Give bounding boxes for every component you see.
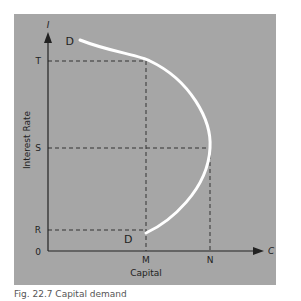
curve-label-top: D [66, 35, 74, 48]
x-axis-arrow-icon [253, 247, 264, 255]
tick-r: R [35, 225, 41, 235]
curve-label-bottom: D [124, 233, 132, 246]
tick-n: N [207, 255, 214, 265]
tick-t: T [35, 56, 42, 66]
y-axis-arrow-icon [44, 32, 52, 43]
tick-s: S [35, 143, 41, 153]
y-axis-symbol: I [47, 20, 50, 30]
x-axis-symbol: C [268, 246, 275, 256]
capital-curve-chart: I C T S R 0 M N Capital Interest Rate D … [0, 0, 301, 301]
tick-m: M [142, 255, 150, 265]
x-axis-label: Capital [130, 268, 162, 278]
y-axis-label: Interest Rate [22, 110, 32, 169]
origin-label: 0 [35, 247, 41, 257]
curve-d [80, 40, 210, 233]
figure-caption: Fig. 22.7 Capital demand [14, 289, 127, 299]
